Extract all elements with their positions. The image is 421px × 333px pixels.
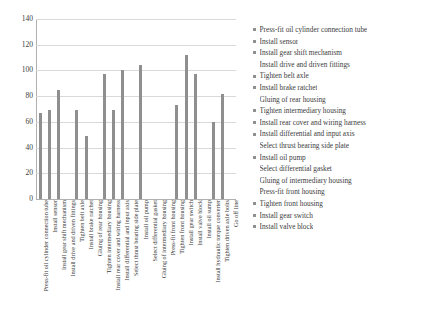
x-axis-label: Install oil sump (206, 200, 212, 239)
legend-item[interactable]: Select differential gasket (253, 163, 421, 175)
bar (103, 74, 106, 199)
legend-item-label: Install oil pump (260, 152, 306, 164)
legend-item[interactable]: Install valve block (253, 221, 421, 233)
x-axis-label: Select thrust bearing side plate (133, 200, 139, 276)
bar (139, 65, 142, 199)
x-axis-label: Press-fit front housing (170, 200, 176, 255)
bar (212, 122, 215, 199)
legend-item-label: Tighten front housing (260, 198, 323, 210)
x-axis-label: Tighten belt axle (79, 200, 85, 242)
legend-item-label: Install brake ratchet (260, 82, 318, 94)
x-axis-label: Tighten driven axle bolts (224, 200, 230, 262)
chart-root: 020406080100120140 Press-fit oil cylinde… (0, 0, 421, 333)
legend-marker-icon (253, 86, 256, 89)
bar (185, 55, 188, 199)
x-axis-label: Install hydraulic torque converter (215, 200, 221, 283)
legend-marker-icon (253, 191, 256, 194)
legend-item-label: Install rear cover and wiring harness (260, 117, 366, 129)
legend-item-label: Install sensor (260, 36, 299, 48)
y-axis-tick-label: 140 (22, 15, 33, 23)
x-axis-label: Install rear cover and wiring harness (115, 200, 121, 290)
bar (221, 94, 224, 199)
legend-item[interactable]: Tighten front housing (253, 198, 421, 210)
bar (85, 136, 88, 199)
x-axis-label: Gluing of rear housing (97, 200, 103, 256)
x-axis-label: Install oil pump (143, 200, 149, 239)
legend-item[interactable]: Select thrust bearing side plate (253, 140, 421, 152)
bar (48, 110, 51, 199)
legend-item[interactable]: Install drive and driven fittings (253, 59, 421, 71)
bar (112, 110, 115, 199)
x-axis-label: Tighten intermediary housing (106, 200, 112, 273)
legend-item[interactable]: Tighten belt axle (253, 70, 421, 82)
legend-item[interactable]: Gluing of intermediary housing (253, 175, 421, 187)
y-axis-tick-label: 20 (26, 170, 34, 178)
chart-legend: Press-fit oil cylinder connection tubeIn… (253, 24, 421, 233)
legend-marker-icon (253, 109, 256, 112)
legend-item-label: Install differential and input axis (260, 128, 355, 140)
legend-item[interactable]: Install sensor (253, 36, 421, 48)
legend-item[interactable]: Install brake ratchet (253, 82, 421, 94)
bar (57, 90, 60, 199)
x-axis-label: Install sensor (52, 200, 58, 233)
legend-marker-icon (253, 202, 256, 205)
legend-marker-icon (253, 51, 256, 54)
legend-item[interactable]: Install gear switch (253, 210, 421, 222)
x-axis-label: Tighten front housing (179, 200, 185, 254)
bar (39, 113, 42, 199)
legend-marker-icon (253, 121, 256, 124)
x-axis-labels: Press-fit oil cylinder connection tubeIn… (36, 200, 246, 333)
legend-item[interactable]: Tighten intermediary housing (253, 105, 421, 117)
x-axis-label: Press-fit oil cylinder connection tube (43, 200, 49, 291)
legend-marker-icon (253, 98, 256, 101)
legend-marker-icon (253, 144, 256, 147)
x-axis-label: Select differential gasket (152, 200, 158, 261)
legend-item-label: Tighten intermediary housing (260, 105, 346, 117)
legend-item-label: Press-fit front housing (260, 186, 325, 198)
legend-item-label: Press-fit oil cylinder connection tube (260, 24, 368, 36)
legend-marker-icon (253, 167, 256, 170)
bar-series (36, 19, 236, 199)
legend-item[interactable]: Press-fit oil cylinder connection tube (253, 24, 421, 36)
bar (175, 105, 178, 199)
y-axis-tick-label: 80 (26, 92, 34, 100)
legend-marker-icon (253, 225, 256, 228)
y-axis-tick-label: 0 (29, 195, 33, 203)
legend-item[interactable]: Install gear shift mechanism (253, 47, 421, 59)
legend-marker-icon (253, 28, 256, 31)
legend-marker-icon (253, 156, 256, 159)
legend-item[interactable]: Install oil pump (253, 152, 421, 164)
legend-marker-icon (253, 75, 256, 78)
x-axis-label: Go off line (233, 200, 239, 227)
bar (121, 70, 124, 199)
y-axis-tick-label: 60 (26, 118, 34, 126)
legend-item[interactable]: Install differential and input axis (253, 128, 421, 140)
legend-marker-icon (253, 133, 256, 136)
legend-item-label: Select thrust bearing side plate (260, 140, 350, 152)
legend-item-label: Gluing of intermediary housing (260, 175, 352, 187)
legend-item-label: Select differential gasket (260, 163, 332, 175)
legend-item[interactable]: Press-fit front housing (253, 186, 421, 198)
bar (194, 74, 197, 199)
legend-item-label: Install valve block (260, 221, 314, 233)
x-axis-label: Install brake ratchet (88, 200, 94, 249)
y-axis-tick-label: 120 (22, 41, 33, 49)
y-axis-tick-label: 100 (22, 67, 33, 75)
y-axis-tick-label: 40 (26, 144, 34, 152)
bar (75, 110, 78, 199)
x-axis-label: Gluing of intermediary housing (161, 200, 167, 278)
legend-item[interactable]: Install rear cover and wiring harness (253, 117, 421, 129)
legend-item-label: Tighten belt axle (260, 70, 309, 82)
legend-marker-icon (253, 63, 256, 66)
x-axis-label: Install gear shift mechanism (61, 200, 67, 270)
x-axis-label: Install valve block (197, 200, 203, 246)
x-axis-label: Install differential and input axis (124, 200, 130, 281)
legend-item-label: Gluing of rear housing (260, 94, 326, 106)
plot-area: 020406080100120140 (36, 19, 236, 199)
legend-item-label: Install gear shift mechanism (260, 47, 342, 59)
legend-marker-icon (253, 179, 256, 182)
legend-item[interactable]: Gluing of rear housing (253, 94, 421, 106)
x-axis-label: Install drive and driven fittings (70, 200, 76, 277)
legend-marker-icon (253, 40, 256, 43)
legend-item-label: Install gear switch (260, 210, 314, 222)
